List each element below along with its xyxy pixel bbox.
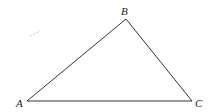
vertex-label-a: A	[15, 97, 23, 109]
faint-mark	[30, 31, 40, 36]
triangle-diagram: B A C	[0, 0, 214, 112]
triangle-abc	[27, 19, 192, 101]
vertex-label-b: B	[121, 5, 128, 17]
vertex-label-c: C	[195, 97, 203, 109]
